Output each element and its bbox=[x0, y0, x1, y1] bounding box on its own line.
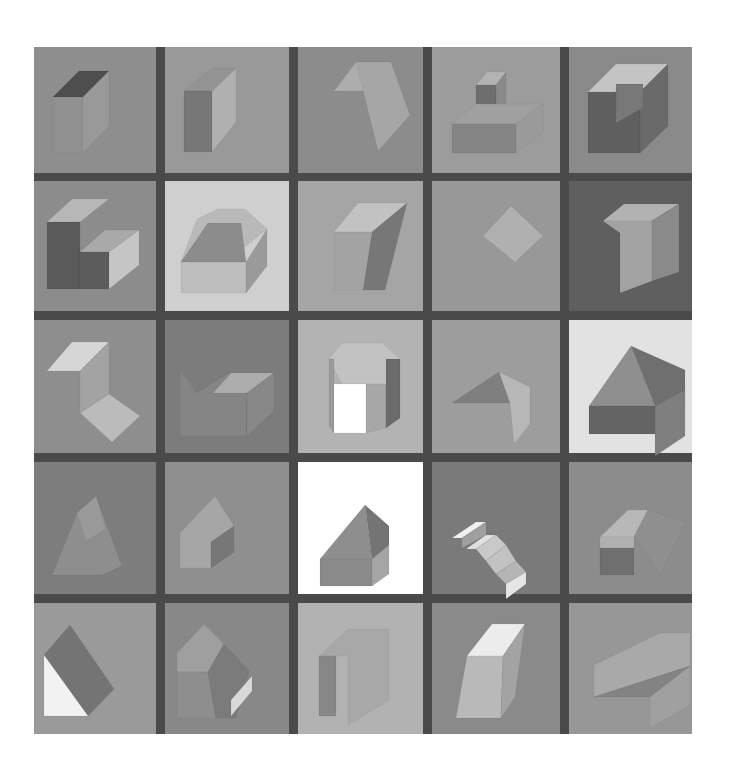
panel-r5-c3 bbox=[298, 603, 423, 734]
panel-r4-c2 bbox=[165, 462, 289, 594]
geometric-shapes-artwork bbox=[0, 0, 731, 780]
panel-r4-c5 bbox=[569, 462, 692, 594]
shape-face bbox=[589, 406, 655, 434]
panel-r4-c4 bbox=[432, 462, 560, 599]
shape-face bbox=[329, 359, 334, 433]
shape-face bbox=[452, 124, 516, 153]
panel-r2-c3 bbox=[298, 181, 423, 311]
panel-r2-c5 bbox=[569, 181, 692, 311]
panel-r4-c3 bbox=[298, 462, 423, 594]
panel-r3-c1 bbox=[34, 320, 156, 453]
shape-face bbox=[600, 548, 634, 575]
panel-r3-c4 bbox=[432, 320, 560, 453]
shape-face bbox=[47, 222, 80, 289]
panel-r4-c1 bbox=[34, 462, 156, 594]
panel-r2-c2 bbox=[165, 181, 289, 311]
panel-r5-c5 bbox=[569, 603, 692, 734]
panel-r1-c5 bbox=[569, 47, 692, 173]
artwork-grid bbox=[34, 47, 692, 734]
panel-r1-c2 bbox=[165, 47, 289, 173]
shape-face bbox=[334, 384, 366, 433]
shape-face bbox=[181, 262, 246, 293]
panel-r5-c2 bbox=[165, 603, 289, 734]
panel-r5-c1 bbox=[34, 603, 156, 734]
panel-r2-c4 bbox=[432, 181, 560, 311]
panel-r3-c5 bbox=[569, 320, 692, 456]
shape-face bbox=[320, 559, 372, 586]
shape-face bbox=[386, 359, 400, 428]
shape-face bbox=[53, 97, 83, 153]
panel-r1-c3 bbox=[298, 47, 423, 173]
panel-r5-c4 bbox=[432, 603, 560, 734]
shape-face bbox=[319, 656, 336, 716]
shape-face bbox=[366, 384, 386, 433]
panel-r2-c1 bbox=[34, 181, 156, 311]
shape-face bbox=[80, 252, 109, 289]
panel-r3-c3 bbox=[298, 320, 423, 453]
panel-r1-c4 bbox=[432, 47, 560, 173]
shape-face bbox=[600, 537, 634, 548]
panel-r3-c2 bbox=[165, 320, 289, 453]
panel-r1-c1 bbox=[34, 47, 156, 173]
shape-face bbox=[184, 91, 212, 152]
